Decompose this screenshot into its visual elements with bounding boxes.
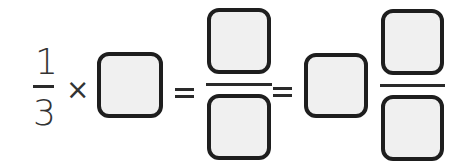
equals-bar-bottom bbox=[175, 95, 194, 98]
mixed-fraction-bar bbox=[380, 84, 445, 87]
product-denominator-box[interactable] bbox=[207, 94, 271, 160]
given-denominator: 3 bbox=[33, 95, 56, 131]
given-numerator: 1 bbox=[35, 44, 58, 80]
product-numerator-box[interactable] bbox=[207, 8, 271, 74]
mixed-denominator-box[interactable] bbox=[381, 95, 444, 161]
equals-bar-top bbox=[175, 88, 194, 91]
multiply-symbol: × bbox=[66, 76, 89, 104]
given-fraction-bar bbox=[33, 85, 54, 88]
whole-number-box[interactable] bbox=[304, 53, 368, 118]
equals-bar-top bbox=[273, 87, 292, 90]
equals-bar-bottom bbox=[273, 94, 292, 97]
factor-input-box[interactable] bbox=[97, 52, 163, 118]
product-fraction-bar bbox=[206, 83, 272, 86]
mixed-numerator-box[interactable] bbox=[381, 9, 444, 75]
